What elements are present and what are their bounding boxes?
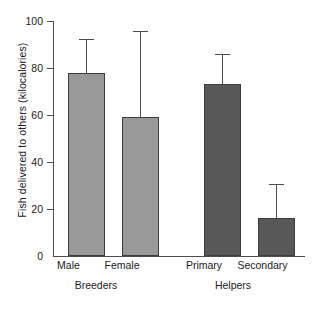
category-label-male: Male xyxy=(48,259,89,271)
bar-male xyxy=(68,73,105,256)
y-tick-label-60: 60 xyxy=(17,109,43,121)
error-bar-cap-male xyxy=(79,39,94,40)
y-tick-label-0: 0 xyxy=(17,250,43,262)
category-label-primary: Primary xyxy=(180,259,228,271)
error-bar-stem-male xyxy=(86,40,87,73)
group-label-helpers: Helpers xyxy=(207,279,259,291)
error-bar-cap-primary xyxy=(215,54,230,55)
error-bar-stem-secondary xyxy=(276,185,277,218)
error-bar-stem-primary xyxy=(222,55,223,84)
error-bar-stem-female xyxy=(140,32,141,117)
bar-secondary xyxy=(258,218,295,256)
category-label-secondary: Secondary xyxy=(232,259,293,271)
category-label-female: Female xyxy=(100,259,144,271)
bar-primary xyxy=(204,84,241,256)
error-bar-cap-secondary xyxy=(269,184,284,185)
error-bar-cap-female xyxy=(133,31,148,32)
y-tick-label-20: 20 xyxy=(17,203,43,215)
y-tick-label-100: 100 xyxy=(17,15,43,27)
group-label-breeders: Breeders xyxy=(66,279,126,291)
plot-area xyxy=(53,21,305,256)
y-tick-label-80: 80 xyxy=(17,62,43,74)
x-axis-line xyxy=(53,256,305,257)
bar-chart-figure: Fish delivered to others (kilocalories) … xyxy=(0,0,322,311)
bar-female xyxy=(122,117,159,256)
y-tick-label-40: 40 xyxy=(17,156,43,168)
